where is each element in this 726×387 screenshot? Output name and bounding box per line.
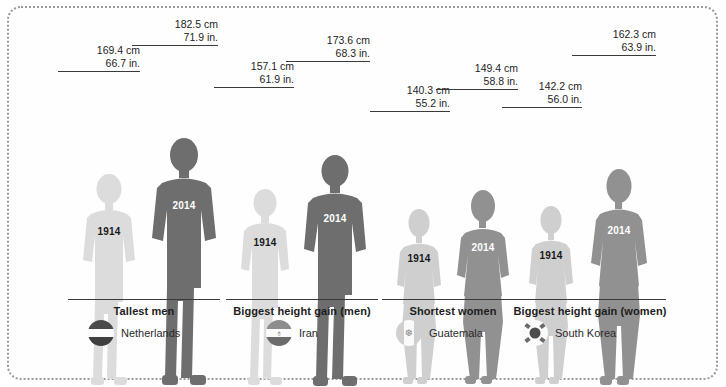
measure-cm: 157.1 cm [214,60,294,73]
measurement-1914: 142.2 cm 56.0 in. [502,80,582,108]
figure-year-label: 2014 [452,242,514,253]
group-country: ♁ Iran [266,320,318,346]
guatemala-flag-icon: ❆ [396,320,422,346]
measure-in: 63.9 in. [572,41,656,54]
group-country: Netherlands [88,320,180,346]
figure-year-label: 1914 [392,253,446,264]
group-title: Shortest women [382,305,524,317]
measure-in: 56.0 in. [502,93,582,106]
figure-year-label: 1914 [78,226,140,237]
measure-cm: 162.3 cm [572,28,656,41]
country-label: South Korea [555,327,616,339]
group-country: South Korea [522,320,616,346]
trigram-icon [539,323,545,329]
iran-emblem-icon: ♁ [276,329,283,338]
measure-in: 61.9 in. [214,73,294,86]
measurement-2014: 173.6 cm 68.3 in. [286,34,370,62]
figure-man-2014: 2014 [148,138,220,387]
measure-cm: 182.5 cm [132,18,218,31]
figure-woman-2014: 2014 [586,169,652,387]
figure-year-label: 1914 [524,250,578,261]
measurement-2014: 162.3 cm 63.9 in. [572,28,656,56]
measurement-1914: 169.4 cm 66.7 in. [58,44,140,72]
figure-woman-1914: 1914 [392,209,446,387]
group-title: Biggest height gain (men) [218,305,386,317]
group-baseline [226,299,378,300]
netherlands-flag-icon [88,320,114,346]
measure-cm: 169.4 cm [58,44,140,57]
group-title: Biggest height gain (women) [506,305,674,317]
figure-year-label: 2014 [148,200,220,211]
measurement-1914: 157.1 cm 61.9 in. [214,60,294,88]
measure-in: 55.2 in. [370,97,450,110]
measure-cm: 142.2 cm [502,80,582,93]
trigram-icon [524,337,530,343]
measurement-2014: 182.5 cm 71.9 in. [132,18,218,46]
infographic-canvas: 1914 169.4 cm 66.7 in. 2014 182.5 cm 71.… [0,0,726,387]
figure-man-2014: 2014 [300,155,370,387]
trigram-icon [539,337,545,343]
group-baseline [514,299,666,300]
country-label: Guatemala [429,327,483,339]
group-baseline [382,299,524,300]
iran-flag-icon: ♁ [266,320,292,346]
figure-year-label: 2014 [586,225,652,236]
country-label: Netherlands [121,327,180,339]
measure-in: 68.3 in. [286,47,370,60]
figure-woman-1914: 1914 [524,206,578,387]
figure-year-label: 2014 [300,213,370,224]
group-baseline [68,299,220,300]
country-label: Iran [299,327,318,339]
measure-cm: 173.6 cm [286,34,370,47]
measure-cm: 149.4 cm [436,62,518,75]
group-title: Tallest men [68,305,220,317]
figure-man-1914: 1914 [78,174,140,387]
figure-year-label: 1914 [236,237,294,248]
measure-in: 66.7 in. [58,57,140,70]
trigram-icon [524,323,530,329]
guatemala-emblem-icon: ❆ [405,329,413,338]
figure-man-1914: 1914 [236,189,294,387]
taegeuk-circle-icon [530,328,541,339]
measure-in: 71.9 in. [132,31,218,44]
south-korea-flag-icon [522,320,548,346]
figure-woman-2014: 2014 [452,190,514,387]
group-country: ❆ Guatemala [396,320,483,346]
